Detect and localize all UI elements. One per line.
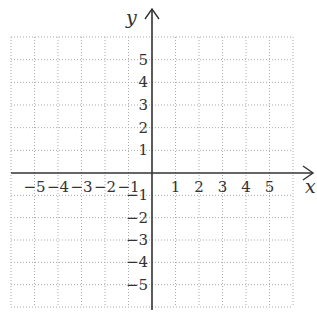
y-tick-label: 1	[138, 141, 148, 159]
x-tick-label: 5	[265, 178, 275, 196]
y-tick-label: 2	[138, 119, 148, 137]
y-tick-label: −2	[126, 209, 148, 227]
x-tick-label: 2	[194, 178, 204, 196]
y-tick-label: 5	[138, 51, 148, 69]
x-tick-label: −2	[94, 178, 116, 196]
x-tick-label: 4	[241, 178, 251, 196]
x-tick-label: 1	[171, 178, 181, 196]
y-axis-label: y	[125, 6, 137, 28]
x-tick-label: 3	[218, 178, 228, 196]
x-tick-label: −4	[47, 178, 69, 196]
x-tick-label: −5	[23, 178, 45, 196]
y-tick-labels: 54321−1−2−3−4−5	[126, 51, 148, 294]
y-tick-label: −1	[126, 186, 148, 204]
y-tick-label: −5	[126, 276, 148, 294]
y-tick-label: −3	[126, 231, 148, 249]
coordinate-plane: −5−4−3−2−112345 54321−1−2−3−4−5 x y	[0, 0, 317, 318]
axes	[11, 9, 313, 310]
x-axis-label: x	[305, 175, 316, 197]
x-tick-labels: −5−4−3−2−112345	[23, 178, 274, 196]
y-tick-label: −4	[126, 253, 148, 271]
y-tick-label: 4	[138, 73, 148, 91]
x-tick-label: −3	[70, 178, 92, 196]
y-tick-label: 3	[138, 96, 148, 114]
